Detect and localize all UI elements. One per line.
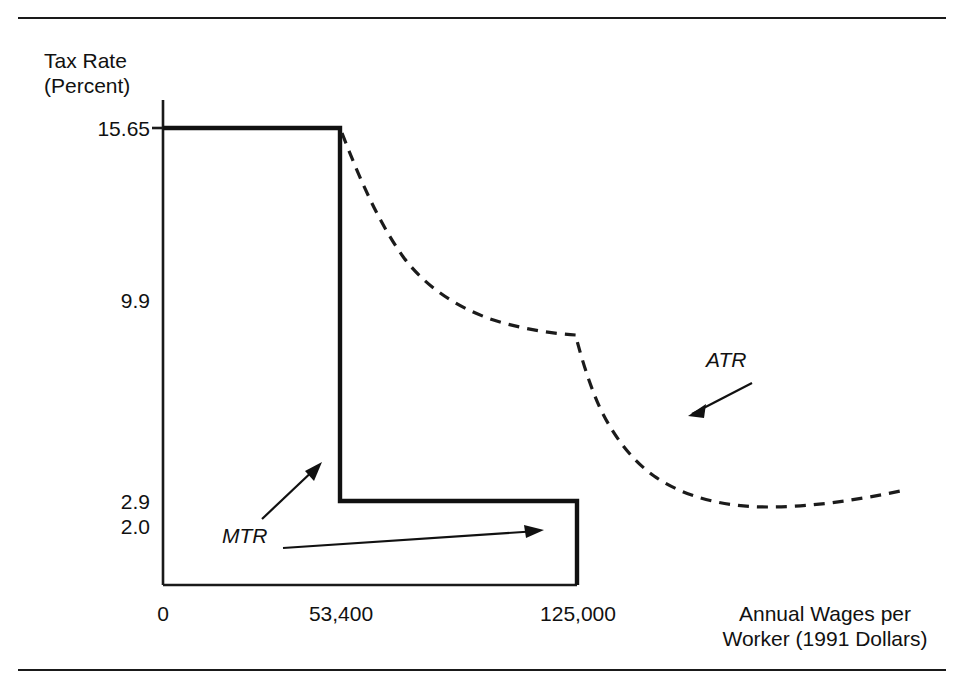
atr-dashed-curve [342, 133, 905, 507]
x-tick-label-125000: 125,000 [518, 601, 638, 626]
y-tick-label-2-9: 2.9 [50, 489, 150, 514]
series-label-atr: ATR [706, 348, 746, 372]
mtr-step-line [163, 128, 577, 585]
mtr-annotation-arrow-up [262, 462, 322, 519]
y-tick-label-15-65: 15.65 [50, 116, 150, 141]
x-axis-title-line1: Annual Wages per [700, 601, 950, 626]
mtr-annotation-arrow-right [283, 525, 544, 548]
series-label-mtr: MTR [222, 524, 268, 548]
y-axis-title-line2: (Percent) [44, 73, 130, 98]
y-tick-label-9-9: 9.9 [50, 288, 150, 313]
x-axis-title: Annual Wages per Worker (1991 Dollars) [700, 601, 950, 651]
figure-container: Tax Rate (Percent) 15.65 9.9 2.9 2.0 0 5… [0, 0, 960, 680]
y-axis-title: Tax Rate (Percent) [44, 48, 130, 98]
y-tick-label-2-0: 2.0 [50, 514, 150, 539]
x-tick-label-0: 0 [141, 601, 185, 626]
y-axis-title-line1: Tax Rate [44, 48, 130, 73]
x-axis-title-line2: Worker (1991 Dollars) [700, 626, 950, 651]
chart-plot-area [0, 0, 960, 680]
x-tick-label-53400: 53,400 [285, 601, 397, 626]
atr-annotation-arrow [688, 383, 752, 418]
